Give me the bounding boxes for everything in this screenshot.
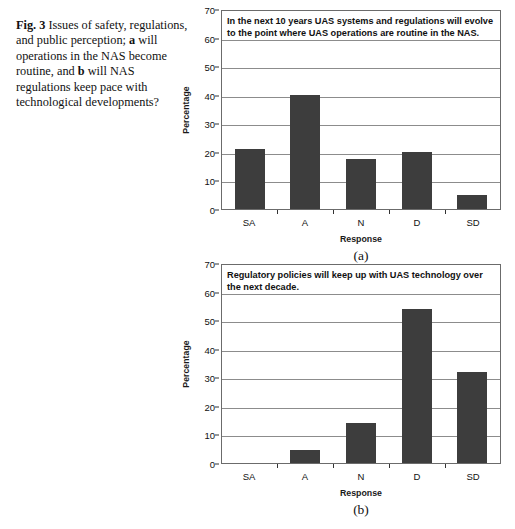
chart-b-title: Regulatory policies will keep up with UA… (227, 269, 495, 293)
x-tick-label: D (414, 217, 421, 228)
bar-SD (457, 195, 487, 209)
y-tick-mark (215, 67, 219, 68)
x-tick-label: D (414, 471, 421, 482)
bar-slot (222, 265, 278, 463)
chart-b-bars (222, 265, 500, 463)
bar-D (402, 309, 432, 463)
chart-b-area: Percentage 010203040506070 Regulatory po… (181, 264, 503, 484)
bar-N (346, 423, 376, 463)
figure-caption: Fig. 3 Issues of safety, regulations, an… (16, 18, 188, 110)
y-tick-label: 30 (204, 373, 215, 384)
y-tick-mark (215, 210, 219, 211)
x-tick-mark (445, 210, 446, 214)
chart-panel-a: Percentage 010203040506070 In the next 1… (181, 10, 503, 230)
chart-a-plot-frame: In the next 10 years UAS systems and reg… (221, 10, 501, 210)
chart-a-bars (222, 11, 500, 209)
chart-b-plot-frame: Regulatory policies will keep up with UA… (221, 264, 501, 464)
bar-slot (444, 265, 500, 463)
y-tick-label: 50 (204, 316, 215, 327)
y-tick-mark (215, 181, 219, 182)
chart-b-y-axis-title: Percentage (179, 264, 193, 464)
y-tick-label: 10 (204, 430, 215, 441)
y-tick-mark (215, 321, 219, 322)
y-tick-label: 70 (204, 5, 215, 16)
bar-SA (235, 149, 265, 209)
y-tick-mark (215, 38, 219, 39)
y-tick-mark (215, 152, 219, 153)
bar-slot (278, 265, 334, 463)
chart-b-y-axis-title-text: Percentage (181, 340, 191, 387)
x-tick-label: SD (466, 471, 479, 482)
y-tick-label: 60 (204, 287, 215, 298)
chart-a-y-axis-title-text: Percentage (181, 86, 191, 133)
chart-a-y-axis-title: Percentage (179, 10, 193, 210)
bar-slot (389, 11, 445, 209)
y-tick-label: 20 (204, 401, 215, 412)
chart-panel-b: Percentage 010203040506070 Regulatory po… (181, 264, 503, 484)
y-tick-mark (215, 264, 219, 265)
chart-a-x-ticks: SAANDSD (221, 210, 501, 236)
x-tick-label: N (358, 471, 365, 482)
y-tick-label: 10 (204, 176, 215, 187)
y-tick-mark (215, 435, 219, 436)
y-tick-mark (215, 292, 219, 293)
y-tick-label: 20 (204, 147, 215, 158)
x-tick-mark (333, 210, 334, 214)
x-tick-mark (277, 210, 278, 214)
x-tick-label: A (302, 217, 308, 228)
x-tick-label: SA (243, 217, 256, 228)
x-tick-label: SD (466, 217, 479, 228)
x-tick-mark (277, 464, 278, 468)
x-tick-mark (333, 464, 334, 468)
chart-a-y-ticks: 010203040506070 (193, 10, 219, 210)
y-tick-label: 60 (204, 33, 215, 44)
y-tick-label: 30 (204, 119, 215, 130)
chart-b-panel-label: (b) (221, 502, 501, 518)
bar-A (290, 95, 320, 209)
x-tick-label: SA (243, 471, 256, 482)
bar-N (346, 159, 376, 209)
bar-A (290, 450, 320, 463)
y-tick-mark (215, 95, 219, 96)
x-tick-label: A (302, 471, 308, 482)
bar-SD (457, 372, 487, 463)
chart-a-x-axis-title: Response (221, 234, 501, 244)
chart-b-x-axis-title: Response (221, 488, 501, 498)
y-tick-mark (215, 349, 219, 350)
y-tick-label: 40 (204, 344, 215, 355)
bar-slot (278, 11, 334, 209)
chart-a-title: In the next 10 years UAS systems and reg… (227, 15, 495, 39)
bar-slot (222, 11, 278, 209)
y-tick-mark (215, 124, 219, 125)
chart-a-area: Percentage 010203040506070 In the next 1… (181, 10, 503, 230)
figure-label: Fig. 3 (16, 18, 45, 32)
y-tick-mark (215, 406, 219, 407)
bar-slot (333, 265, 389, 463)
x-tick-mark (389, 210, 390, 214)
y-tick-label: 50 (204, 62, 215, 73)
x-tick-mark (445, 464, 446, 468)
bar-D (402, 152, 432, 209)
chart-b-x-ticks: SAANDSD (221, 464, 501, 490)
y-tick-mark (215, 464, 219, 465)
y-tick-mark (215, 10, 219, 11)
bar-slot (444, 11, 500, 209)
chart-b-y-ticks: 010203040506070 (193, 264, 219, 464)
y-tick-label: 40 (204, 90, 215, 101)
y-tick-label: 70 (204, 259, 215, 270)
y-tick-mark (215, 378, 219, 379)
bar-slot (333, 11, 389, 209)
x-tick-mark (389, 464, 390, 468)
x-tick-label: N (358, 217, 365, 228)
chart-a-panel-label: (a) (221, 248, 501, 264)
bar-slot (389, 265, 445, 463)
caption-ref-b: b (78, 64, 85, 78)
